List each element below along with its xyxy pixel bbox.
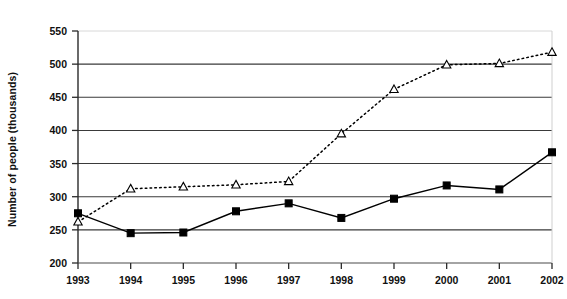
data-point-series-squares-2002	[549, 149, 556, 156]
y-tick-label-200: 200	[49, 257, 67, 269]
x-tick-label-1996: 1996	[224, 274, 248, 286]
x-tick-label-1993: 1993	[66, 274, 90, 286]
data-point-series-squares-1998	[338, 214, 345, 221]
x-tick-label-2001: 2001	[488, 274, 512, 286]
y-tick-label-500: 500	[49, 58, 67, 70]
y-tick-label-450: 450	[49, 91, 67, 103]
y-tick-label-400: 400	[49, 124, 67, 136]
y-tick-label-300: 300	[49, 191, 67, 203]
data-point-series-squares-1996	[233, 208, 240, 215]
data-point-series-squares-1995	[180, 229, 187, 236]
data-point-series-triangles-1993	[74, 218, 82, 226]
data-point-series-squares-1997	[285, 200, 292, 207]
data-point-series-triangles-2001	[495, 59, 503, 67]
chart-container: Number of people (thousands) 20025030035…	[0, 0, 567, 299]
x-tick-label-1999: 1999	[382, 274, 406, 286]
line-series-squares	[78, 152, 552, 233]
x-tick-label-1995: 1995	[172, 274, 196, 286]
axis-lines-group	[78, 31, 552, 263]
data-point-series-squares-1994	[127, 230, 134, 237]
x-tick-label-2002: 2002	[540, 274, 564, 286]
data-point-series-squares-2000	[443, 182, 450, 189]
data-point-series-triangles-1994	[126, 184, 134, 192]
y-tick-label-550: 550	[49, 25, 67, 37]
x-tick-label-1997: 1997	[277, 274, 301, 286]
chart-plot: 200250300350400450500550 199319941995199…	[0, 0, 567, 299]
series-markers-group	[74, 48, 556, 237]
x-tick-labels-group: 1993199419951996199719981999200020012002	[66, 274, 564, 286]
series-lines-group	[78, 52, 552, 233]
data-point-series-triangles-2002	[548, 48, 556, 56]
x-tick-label-1998: 1998	[330, 274, 354, 286]
data-point-series-triangles-1997	[284, 177, 292, 185]
x-tick-label-2000: 2000	[435, 274, 459, 286]
gridlines-group	[78, 31, 552, 230]
y-tick-label-250: 250	[49, 224, 67, 236]
data-point-series-squares-2001	[496, 186, 503, 193]
data-point-series-triangles-1999	[390, 85, 398, 93]
x-tick-label-1994: 1994	[119, 274, 143, 286]
data-point-series-squares-1999	[391, 195, 398, 202]
data-point-series-squares-1993	[75, 210, 82, 217]
y-tick-group	[72, 31, 78, 263]
x-tick-group	[78, 263, 552, 269]
y-tick-labels-group: 200250300350400450500550	[49, 25, 67, 269]
y-tick-label-350: 350	[49, 158, 67, 170]
